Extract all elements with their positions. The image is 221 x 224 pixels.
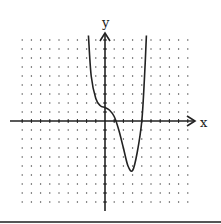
- y-axis-label: y: [101, 15, 110, 30]
- x-axis: [10, 116, 195, 126]
- function-curve: [88, 36, 146, 172]
- graph: x y: [0, 0, 221, 224]
- x-axis-label: x: [200, 115, 208, 130]
